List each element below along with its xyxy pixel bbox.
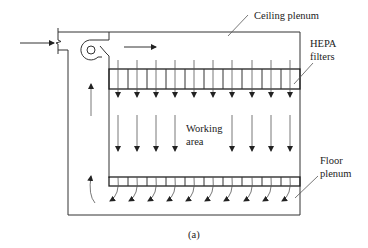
floor-curved-arrows [110,177,290,201]
floor-plenum-label-line1: Floor [320,155,343,166]
floor-plenum-label-line2: plenum [320,168,352,179]
cleanroom-diagram: Ceiling plenum HEPA filters Working area… [0,0,368,248]
blower-fan-icon [81,32,109,178]
ceiling-plenum-label: Ceiling plenum [254,10,319,21]
ceiling-plenum-leader [228,15,248,36]
floor-plenum-leader [295,176,318,198]
figure-caption: (a) [188,229,200,241]
return-air-arrows [90,84,95,203]
enclosure [56,28,300,215]
working-area-label-line1: Working [186,123,223,134]
hepa-filters-label-line1: HEPA [310,38,337,49]
hepa-filters-leader [294,63,313,84]
working-area-label-line2: area [186,136,204,147]
hepa-filters-label-line2: filters [310,51,335,62]
